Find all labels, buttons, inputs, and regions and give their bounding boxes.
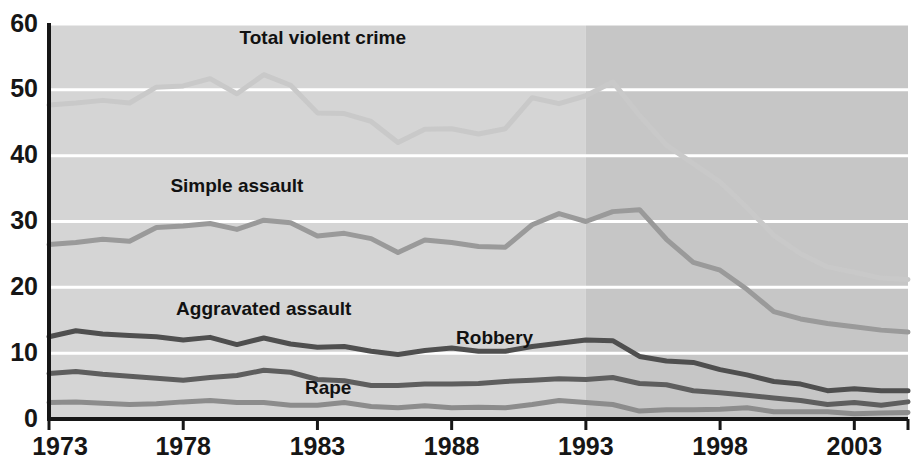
series-label-aggravated-assault: Aggravated assault <box>176 298 352 319</box>
series-label-simple-assault: Simple assault <box>170 175 304 196</box>
y-tick-label-0: 0 <box>24 404 38 432</box>
x-tick-label-1998: 1998 <box>692 432 748 460</box>
violent-crime-trend-line-chart: 0102030405060 19731978198319881993199820… <box>0 0 920 464</box>
series-label-robbery: Robbery <box>456 327 534 348</box>
y-tick-label-20: 20 <box>10 272 38 300</box>
chart-figure: 0102030405060 19731978198319881993199820… <box>0 0 920 464</box>
y-tick-label-30: 30 <box>10 206 38 234</box>
y-tick-label-10: 10 <box>10 338 38 366</box>
x-tick-label-1993: 1993 <box>558 432 614 460</box>
x-tick-label-1983: 1983 <box>290 432 346 460</box>
x-tick-label-1973: 1973 <box>32 432 88 460</box>
x-tick-label-1988: 1988 <box>424 432 480 460</box>
x-tick-label-1978: 1978 <box>155 432 211 460</box>
y-tick-label-40: 40 <box>10 140 38 168</box>
series-label-total-violent-crime: Total violent crime <box>240 27 406 48</box>
y-tick-label-60: 60 <box>10 9 38 37</box>
y-tick-label-50: 50 <box>10 74 38 102</box>
series-label-rape: Rape <box>305 377 351 398</box>
x-tick-label-2003: 2003 <box>827 432 883 460</box>
